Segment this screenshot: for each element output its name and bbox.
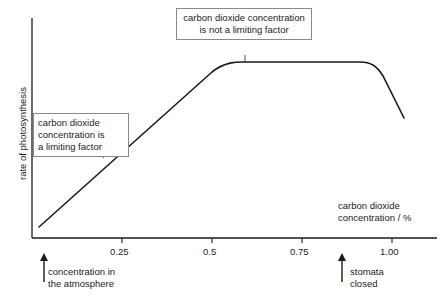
marker-label-atmosphere: concentration in the atmosphere — [48, 266, 148, 290]
chart-container: rate of photosynthesis carbon dioxide co… — [0, 0, 445, 305]
x-tick-label-0.5: 0.5 — [203, 246, 216, 257]
x-tick-label-0.75: 0.75 — [290, 246, 309, 257]
annotation-not-limiting-factor: carbon dioxide concentration is not a li… — [176, 8, 312, 40]
stomata-arrow-icon — [338, 253, 346, 282]
x-tick-label-0.25: 0.25 — [110, 246, 129, 257]
marker-label-stomata: stomata closed — [350, 266, 430, 290]
annotation-limiting-factor: carbon dioxide concentration is a limiti… — [33, 113, 129, 157]
x-tick-label-1.00: 1.00 — [380, 246, 399, 257]
x-axis-label: carbon dioxide concentration / % — [338, 200, 445, 224]
atmosphere-arrow-icon — [40, 253, 48, 282]
y-axis-label: rate of photosynthesis — [17, 74, 28, 194]
